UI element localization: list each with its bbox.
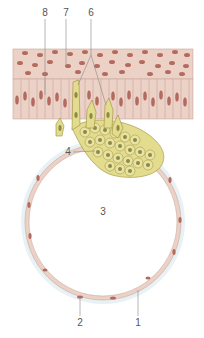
upper-tissue-layer bbox=[13, 49, 193, 79]
label-7: 7 bbox=[63, 8, 69, 18]
diagram-figure: 8 7 6 4 3 2 1 bbox=[0, 0, 204, 338]
columnar-epithelium bbox=[13, 79, 193, 119]
label-6: 6 bbox=[88, 8, 94, 18]
label-8: 8 bbox=[42, 8, 48, 18]
label-2: 2 bbox=[77, 318, 83, 328]
label-4: 4 bbox=[65, 147, 71, 157]
label-3: 3 bbox=[100, 207, 106, 217]
histology-illustration bbox=[0, 0, 204, 338]
label-1: 1 bbox=[135, 318, 141, 328]
